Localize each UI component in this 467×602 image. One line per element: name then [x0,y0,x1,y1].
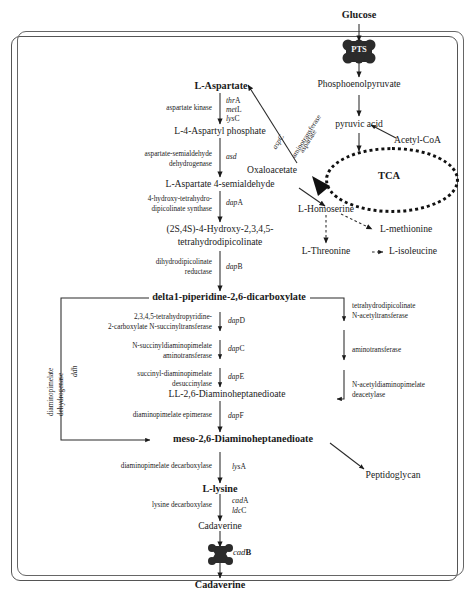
metabolite-l-methionine: L-methionine [380,224,432,234]
gene-lysA: lysA [232,463,246,471]
enzyme-dapA-line1: 4-hydroxy-tetrahydro- [148,196,212,204]
enzyme-dapA-line2: dipicolinate synthase [152,206,212,214]
enzyme-dapD-line1: 2,3,4,5-tetrahydropyridine- [134,314,212,322]
enzyme-thdp-n-acetyltransferase-line2: N-acetyltransferase [352,313,408,321]
enzyme-lysine-decarboxylase: lysine decarboxylase [152,502,212,510]
enzyme-aspartate-semialdehyde-dehydrogenase-line1: aspartate-semialdehyde [145,151,212,159]
gene-dapD: dapD [228,317,245,325]
pathway-diagram-canvas: TCA Glucose PTS Phosphoenolpyruvate pyru… [0,0,467,602]
metabolite-hydroxy-tetrahydrodipicolinate-line1: (2S,4S)-4-Hydroxy-2,3,4,5- [166,224,273,234]
metabolite-peptidoglycan: Peptidoglycan [366,470,421,480]
enzyme-diaminopimelate-dehydrogenase-line2: dehydrogenase [57,373,65,416]
metabolite-meso-diaminoheptanedioate: meso-2,6-Diaminoheptanedioate [173,434,313,445]
gene-cadA: cadA [232,497,248,505]
enzyme-diaminopimelate-dehydrogenase-line1: diaminopimelate [47,368,55,416]
metabolite-l4-aspartyl-phosphate: L-4-Aspartyl phosphate [174,126,265,136]
gene-dapE: dapE [228,373,244,381]
metabolite-ll-diaminoheptanedioate: LL-2,6-Diaminoheptanedioate [169,389,286,399]
metabolite-cadaverine-extracellular: Cadaverine [195,580,245,591]
gene-lysC: lysC [226,115,240,123]
tca-label: TCA [378,170,400,181]
metabolite-cadaverine-intracellular: Cadaverine [198,521,242,531]
metabolite-phosphoenolpyruvate: Phosphoenolpyruvate [317,79,400,89]
gene-asd: asd [226,153,237,161]
gene-cadb-italic: cad [233,547,245,557]
enzyme-dapB-line1: dihydrodipicolinate [156,259,212,267]
gene-dapF: dapF [228,412,244,420]
metabolite-glucose: Glucose [342,10,377,21]
metabolite-pyruvic-acid: pyruvic acid [335,119,383,129]
enzyme-n-acetyldiaminopimelate-deacetylase-line1: N-acetyldiaminopimelate [352,382,425,390]
metabolite-l-isoleucine: L-isoleucine [389,246,437,256]
metabolite-l-aspartate-4-semialdehyde: L-Aspartate 4-semialdehyde [166,179,275,189]
gene-dapA: dapA [226,199,243,207]
enzyme-aminotransferase: aminotransferase [352,347,401,355]
gene-ldcC: ldcC [232,507,246,515]
enzyme-thdp-n-acetyltransferase-line1: tetrahydrodipicolinate [352,303,415,311]
enzyme-dapF: diaminopimelate epimerase [133,412,212,420]
enzyme-dapB-line2: reductase [185,269,212,277]
gene-cadb-upper: B [245,547,251,557]
metabolite-l-lysine: L-lysine [202,484,237,495]
enzyme-dapE-line2: desuccinylase [172,381,212,389]
transporter-pts-label: PTS [351,45,367,54]
transporter-cadb-label: cadB [233,548,251,557]
gene-ddh: ddh [70,366,79,377]
metabolite-acetyl-coa: Acetyl-CoA [394,135,441,145]
metabolite-l-homoserine: L-Homoserine [298,204,354,214]
gene-dapB: dapB [226,263,242,271]
enzyme-n-acetyldiaminopimelate-deacetylase-line2: deacetylase [352,392,385,400]
enzyme-dapE-line1: succinyl-diaminopimelate [137,371,212,379]
gene-thrA: thrA [226,97,240,105]
enzyme-dapD-line2: 2-carboxylate N-succinyltransferase [108,324,212,332]
metabolite-l-aspartate: L-Aspartate [194,81,247,92]
gene-dapC: dapC [228,345,244,353]
enzyme-dapC-line2: aminotransferase [163,353,212,361]
enzyme-aspartate-kinase: aspartate kinase [166,105,212,113]
metabolite-hydroxy-tetrahydrodipicolinate-line2: tetrahydrodipicolinate [178,237,263,247]
metabolite-l-threonine: L-Threonine [302,246,350,256]
enzyme-lysA: diaminopimelate decarboxylase [121,463,212,471]
metabolite-delta1-piperidine-dicarboxylate: delta1-piperidine-2,6-dicarboxylate [152,292,306,303]
enzyme-aspartate-semialdehyde-dehydrogenase-line2: dehydrogenase [169,161,212,169]
enzyme-dapC-line1: N-succinyldiaminopimelate [132,343,212,351]
gene-metL: metL [226,106,242,114]
metabolite-oxaloacetate: Oxaloacetate [247,165,297,175]
